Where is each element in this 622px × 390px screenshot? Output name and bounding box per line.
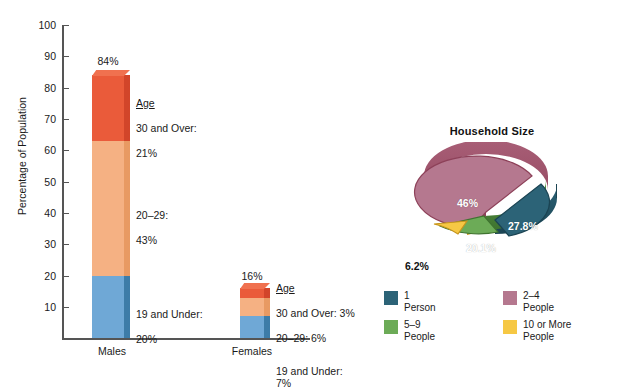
bar-females-segment-over30 bbox=[240, 288, 264, 298]
bar-side-face bbox=[264, 288, 270, 298]
y-tick-mark-40 bbox=[62, 213, 69, 214]
annotation-males-over30-line1: 30 and Over: bbox=[136, 122, 197, 134]
bar-front-face bbox=[240, 288, 264, 298]
y-tick-mark-80 bbox=[62, 88, 69, 89]
annotation-females: Age 30 and Over: 3% 20–29: 6% 19 and Und… bbox=[276, 269, 360, 390]
legend-row-2: 5–9 People 10 or More People bbox=[384, 319, 622, 348]
legend-label-1-person: 1 Person bbox=[404, 290, 436, 313]
y-tick-mark-30 bbox=[62, 244, 69, 245]
legend-label-10-or-more-people: 10 or More People bbox=[523, 319, 571, 342]
bar-males-segment-20-29 bbox=[92, 141, 124, 276]
y-tick-label-10: 10 bbox=[30, 302, 56, 312]
bar-side-face bbox=[124, 275, 130, 338]
y-tick-label-100: 100 bbox=[30, 20, 56, 30]
pie-label-10-or-more-people: 6.2% bbox=[405, 260, 429, 272]
annotation-males-20-29-line2: 43% bbox=[136, 234, 157, 246]
bar-front-face bbox=[92, 141, 124, 276]
annotation-females-heading: Age bbox=[276, 282, 295, 294]
annotation-males-heading: Age bbox=[136, 97, 155, 109]
annotation-males-over30: Age 30 and Over: 21% bbox=[136, 84, 197, 159]
bar-side-face bbox=[124, 141, 130, 276]
y-tick-mark-60 bbox=[62, 150, 69, 151]
legend-swatch-2-4-people bbox=[503, 291, 517, 305]
y-tick-label-70: 70 bbox=[30, 114, 56, 124]
y-tick-label-30: 30 bbox=[30, 239, 56, 249]
legend-item-5-9-people[interactable]: 5–9 People bbox=[384, 319, 503, 342]
annotation-males-20-29: 20–29: 43% bbox=[136, 196, 168, 246]
bar-front-face bbox=[240, 297, 264, 316]
annotation-females-line3: 19 and Under: 7% bbox=[276, 365, 343, 390]
bar-front-face bbox=[240, 316, 264, 338]
pie-label-5-9-people: 20.1% bbox=[466, 242, 496, 254]
annotation-males-over30-line2: 21% bbox=[136, 147, 157, 159]
y-tick-label-80: 80 bbox=[30, 83, 56, 93]
y-tick-mark-10 bbox=[62, 307, 69, 308]
bar-males-segment-over30 bbox=[92, 75, 124, 141]
x-tick-label-males: Males bbox=[82, 345, 142, 357]
y-tick-mark-90 bbox=[62, 56, 69, 57]
legend-swatch-10-or-more-people bbox=[503, 320, 517, 334]
bar-females-total-label: 16% bbox=[226, 270, 278, 282]
y-axis-title: Percentage of Population bbox=[16, 56, 28, 256]
annotation-males-under19: 19 and Under: 20% bbox=[136, 295, 203, 345]
legend-item-10-or-more-people[interactable]: 10 or More People bbox=[503, 319, 622, 342]
y-tick-label-50: 50 bbox=[30, 177, 56, 187]
legend-label-5-9-people: 5–9 People bbox=[404, 319, 435, 342]
annotation-males-20-29-line1: 20–29: bbox=[136, 209, 168, 221]
pie-label-2-4-people: 46% bbox=[457, 197, 478, 209]
legend-item-2-4-people[interactable]: 2–4 People bbox=[503, 290, 622, 313]
y-tick-mark-100 bbox=[62, 25, 69, 26]
pie-side-edge bbox=[556, 184, 557, 198]
annotation-males-under19-line2: 20% bbox=[136, 333, 157, 345]
pie-chart-title: Household Size bbox=[362, 125, 622, 137]
y-tick-label-60: 60 bbox=[30, 145, 56, 155]
x-tick-label-females: Females bbox=[222, 345, 282, 357]
bar-side-face bbox=[264, 316, 270, 338]
bar-chart: Percentage of Population 100 90 80 70 60… bbox=[0, 0, 360, 371]
pie-graphic: 46% 27.8% 20.1% 6.2% bbox=[362, 142, 622, 282]
bar-males-top-face bbox=[92, 70, 130, 76]
y-tick-label-40: 40 bbox=[30, 208, 56, 218]
bar-males-total-label: 84% bbox=[82, 55, 134, 67]
y-tick-mark-50 bbox=[62, 182, 69, 183]
legend-item-1-person[interactable]: 1 Person bbox=[384, 290, 503, 313]
pie-svg bbox=[362, 142, 622, 282]
pie-label-1-person: 27.8% bbox=[508, 220, 538, 232]
pie-legend: 1 Person 2–4 People 5–9 People 10 or Mor… bbox=[384, 290, 622, 348]
bar-males-segment-under19 bbox=[92, 275, 124, 338]
y-tick-label-20: 20 bbox=[30, 271, 56, 281]
bar-side-face bbox=[124, 75, 130, 141]
annotation-females-line2: 20–29: 6% bbox=[276, 332, 326, 344]
legend-row-1: 1 Person 2–4 People bbox=[384, 290, 622, 319]
bar-front-face bbox=[92, 275, 124, 338]
pie-chart: Household Size bbox=[362, 0, 622, 371]
annotation-females-line1: 30 and Over: 3% bbox=[276, 307, 355, 319]
bar-females-segment-under19 bbox=[240, 316, 264, 338]
legend-swatch-1-person bbox=[384, 291, 398, 305]
y-tick-mark-20 bbox=[62, 276, 69, 277]
annotation-males-under19-line1: 19 and Under: bbox=[136, 308, 203, 320]
y-tick-mark-70 bbox=[62, 119, 69, 120]
legend-label-2-4-people: 2–4 People bbox=[523, 290, 554, 313]
bar-females-segment-20-29 bbox=[240, 297, 264, 316]
bar-front-face bbox=[92, 75, 124, 141]
legend-swatch-5-9-people bbox=[384, 320, 398, 334]
bar-side-face bbox=[264, 297, 270, 316]
y-tick-label-90: 90 bbox=[30, 51, 56, 61]
